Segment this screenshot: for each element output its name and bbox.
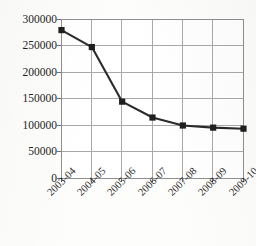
- x-axis-tick-label: 2006-07: [136, 165, 169, 198]
- chart-container: 050000100000150000200000250000300000 200…: [0, 0, 256, 246]
- x-axis-tick-label: 2009-10: [227, 165, 257, 198]
- x-axis-tick-label: 2003-04: [45, 165, 78, 198]
- x-axis-tick-label: 2004-05: [75, 165, 108, 198]
- x-axis-tick-label: 2007-08: [166, 165, 199, 198]
- x-axis-tick-label: 2008-09: [196, 165, 229, 198]
- x-axis-labels: 2003-042004-052005-062006-072007-082008-…: [0, 0, 256, 246]
- x-axis-tick-label: 2005-06: [105, 165, 138, 198]
